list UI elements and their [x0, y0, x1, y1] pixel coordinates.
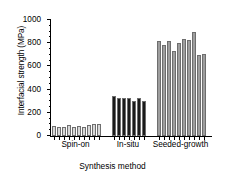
bar — [177, 43, 180, 136]
bar — [82, 127, 85, 137]
bar — [172, 51, 175, 136]
bar — [132, 101, 135, 136]
bar — [157, 41, 160, 136]
y-axis-tick-label: 1000 — [23, 15, 41, 24]
bar — [92, 124, 95, 136]
bar — [142, 101, 145, 136]
bar — [67, 125, 70, 136]
bar — [137, 98, 140, 136]
bar-series-container — [51, 20, 212, 136]
bar — [197, 55, 200, 136]
bar — [187, 40, 190, 136]
bar — [57, 127, 60, 136]
bar — [167, 41, 170, 136]
y-axis-tick-label: 200 — [27, 108, 41, 117]
bar — [122, 98, 125, 137]
y-axis-tick-label: 800 — [27, 38, 41, 47]
y-axis-tick-label: 400 — [27, 85, 41, 94]
bar — [112, 96, 115, 136]
bar — [192, 32, 195, 136]
bar — [97, 124, 100, 136]
group-label-seeded-growth: Seeded-growth — [121, 140, 226, 149]
bar — [77, 126, 80, 136]
bar — [182, 39, 185, 136]
bar — [62, 127, 65, 137]
bar — [162, 45, 165, 136]
x-axis-title: Synthesis method — [0, 161, 225, 171]
chart-figure: Interfacial strength (MPa) Synthesis met… — [0, 0, 225, 183]
bar — [87, 125, 90, 136]
y-axis-tick-label: 600 — [27, 61, 41, 70]
bar — [127, 98, 130, 136]
bar — [202, 54, 205, 136]
plot-area: 02004006008001000 — [50, 20, 212, 137]
bar — [117, 98, 120, 136]
y-axis-tick-label: 0 — [36, 131, 41, 140]
bar — [72, 127, 75, 136]
y-axis-title: Interfacial strength (MPa) — [17, 11, 26, 131]
bar — [52, 126, 55, 136]
